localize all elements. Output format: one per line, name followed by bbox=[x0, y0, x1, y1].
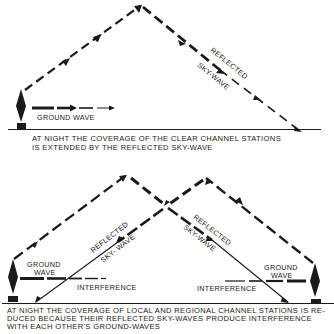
top-diagram: GROUND WAVE REFLECTED SKY-WAVE AT NIGHT … bbox=[8, 5, 321, 152]
bottom-caption-line-3: WITH EACH OTHER'S GROUND-WAVES bbox=[7, 322, 160, 331]
ground-wave-label: GROUND WAVE bbox=[37, 113, 95, 122]
radio-propagation-diagram: GROUND WAVE REFLECTED SKY-WAVE AT NIGHT … bbox=[0, 0, 334, 334]
bottom-diagram: GROUND WAVE INTERFERENCE REFLECTED SKY- … bbox=[2, 175, 334, 331]
right-antenna-tower-icon bbox=[310, 263, 321, 304]
left-interference-label: INTERFERENCE bbox=[77, 283, 137, 292]
left-wave-label: WAVE bbox=[34, 268, 56, 277]
right-wave-label: WAVE bbox=[271, 271, 293, 280]
ground-wave-arrow bbox=[32, 105, 115, 112]
top-caption-line-2: IS EXTENDED BY THE REFLECTED SKY-WAVE bbox=[32, 143, 213, 152]
left-antenna-tower-icon bbox=[8, 259, 18, 302]
right-interference-label: INTERFERENCE bbox=[197, 284, 257, 293]
left-upgoing-sky-wave bbox=[14, 175, 127, 259]
antenna-tower-icon bbox=[16, 89, 26, 129]
reflected-sky-wave bbox=[143, 7, 302, 132]
upgoing-sky-wave bbox=[25, 5, 142, 90]
right-upgoing-sky-wave bbox=[205, 178, 313, 263]
top-caption-line-1: AT NIGHT THE COVERAGE OF THE CLEAR CHANN… bbox=[32, 134, 281, 143]
